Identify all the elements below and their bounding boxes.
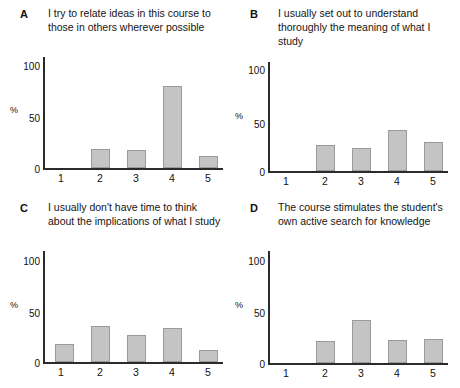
- y-tick-0: 0: [239, 359, 265, 370]
- x-tick-4: 4: [162, 366, 182, 378]
- x-tick-3: 3: [126, 366, 146, 378]
- panel-a: A I try to relate ideas in this course t…: [0, 0, 230, 194]
- bar: [388, 340, 407, 363]
- x-tick-5: 5: [423, 175, 443, 187]
- y-axis-percent-label: %: [10, 300, 18, 310]
- bar: [316, 341, 335, 363]
- bar-chart-figure: A I try to relate ideas in this course t…: [0, 0, 460, 388]
- bar: [352, 148, 371, 171]
- panel-c-plot: 100 50 0 % 1 2 3 4 5: [0, 194, 230, 388]
- panel-d-plot: 100 50 0 % 1 2 3 4 5: [230, 194, 460, 388]
- x-tick-1: 1: [51, 172, 71, 184]
- bar: [199, 350, 218, 362]
- x-axis-line: [268, 171, 448, 173]
- x-tick-1: 1: [276, 367, 296, 379]
- bar: [127, 335, 146, 362]
- bar: [316, 145, 335, 171]
- y-tick-100: 100: [239, 256, 265, 267]
- y-axis-line: [43, 251, 45, 363]
- bar: [55, 344, 74, 362]
- panel-c: C I usually don't have time to think abo…: [0, 194, 230, 388]
- x-tick-1: 1: [51, 366, 71, 378]
- x-tick-5: 5: [198, 172, 218, 184]
- x-tick-5: 5: [423, 367, 443, 379]
- x-tick-2: 2: [315, 175, 335, 187]
- x-tick-2: 2: [90, 172, 110, 184]
- y-tick-0: 0: [239, 167, 265, 178]
- bar: [127, 150, 146, 168]
- x-tick-2: 2: [315, 367, 335, 379]
- x-tick-3: 3: [351, 367, 371, 379]
- x-axis-line: [43, 168, 223, 170]
- y-tick-0: 0: [14, 358, 40, 369]
- bar: [163, 328, 182, 362]
- y-axis-percent-label: %: [10, 105, 18, 115]
- bar: [352, 320, 371, 363]
- y-axis-line: [268, 62, 270, 173]
- x-tick-2: 2: [90, 366, 110, 378]
- y-tick-100: 100: [239, 65, 265, 76]
- y-tick-100: 100: [14, 256, 40, 267]
- bar: [163, 86, 182, 168]
- y-axis-percent-label: %: [235, 111, 243, 121]
- x-tick-1: 1: [276, 175, 296, 187]
- bar: [91, 149, 110, 168]
- x-tick-4: 4: [387, 175, 407, 187]
- y-axis-percent-label: %: [235, 300, 243, 310]
- x-tick-4: 4: [387, 367, 407, 379]
- y-tick-100: 100: [14, 61, 40, 72]
- bar: [388, 130, 407, 171]
- panel-a-plot: 100 50 0 % 1 2 3 4 5: [0, 0, 230, 194]
- panel-d: D The course stimulates the student's ow…: [230, 194, 460, 388]
- bar: [199, 156, 218, 168]
- y-axis-line: [43, 57, 45, 170]
- x-tick-3: 3: [126, 172, 146, 184]
- y-axis-line: [268, 251, 270, 364]
- x-tick-3: 3: [351, 175, 371, 187]
- panel-b: B I usually set out to understand thorou…: [230, 0, 460, 194]
- panel-b-plot: 100 50 0 % 1 2 3 4 5: [230, 0, 460, 194]
- x-tick-5: 5: [198, 366, 218, 378]
- bar: [424, 339, 443, 363]
- x-tick-4: 4: [162, 172, 182, 184]
- bar: [91, 326, 110, 362]
- y-tick-0: 0: [14, 164, 40, 175]
- bar: [424, 142, 443, 171]
- x-axis-line: [268, 363, 448, 365]
- x-axis-line: [43, 362, 223, 364]
